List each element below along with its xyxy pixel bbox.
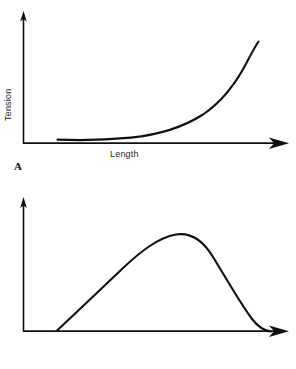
x-axis-label-a: Length bbox=[110, 150, 139, 159]
chart-a-plot bbox=[0, 0, 296, 185]
figure-container: Tension Length A Tension Length B bbox=[0, 0, 296, 369]
chart-panel-a: Tension Length A bbox=[0, 0, 296, 185]
chart-b-plot bbox=[0, 185, 296, 369]
y-axis-label-a: Tension bbox=[4, 89, 13, 121]
curve-b-inverted-u bbox=[57, 234, 272, 331]
chart-panel-b: Tension Length B bbox=[0, 185, 296, 369]
panel-letter-a: A bbox=[14, 161, 22, 172]
curve-a-exponential bbox=[58, 42, 259, 141]
